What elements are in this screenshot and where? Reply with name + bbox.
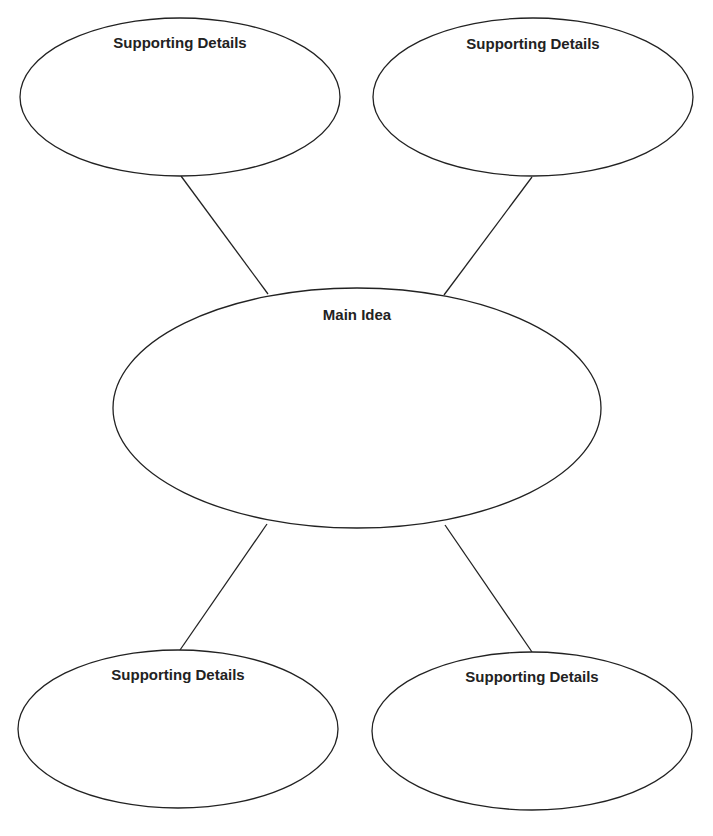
connector-bottom-right: [445, 525, 532, 652]
detail-label-bottom-left: Supporting Details: [111, 666, 244, 683]
main-idea-label: Main Idea: [323, 306, 391, 323]
connector-bottom-left: [180, 524, 267, 650]
detail-label-bottom-right: Supporting Details: [465, 668, 598, 685]
detail-label-top-left: Supporting Details: [113, 34, 246, 51]
connector-top-right: [444, 177, 532, 295]
connector-top-left: [181, 176, 268, 294]
graphic-organizer: [0, 0, 713, 836]
main-idea-bubble[interactable]: [113, 288, 601, 528]
detail-label-top-right: Supporting Details: [466, 35, 599, 52]
